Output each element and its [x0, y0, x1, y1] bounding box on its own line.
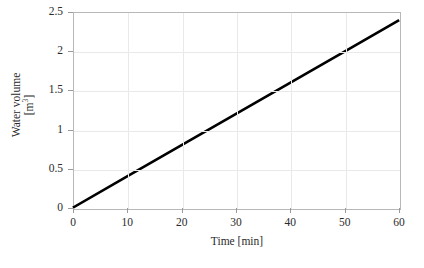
- x-tick-mark: [399, 208, 400, 213]
- x-tick-label: 20: [162, 217, 202, 229]
- x-tick-label: 60: [379, 217, 419, 229]
- x-tick-label: 10: [107, 217, 147, 229]
- x-tick-label: 0: [53, 217, 93, 229]
- y-tick-label: 0.5: [0, 163, 63, 175]
- y-axis-unit-base: [m: [23, 102, 35, 115]
- x-tick-label: 40: [270, 217, 310, 229]
- y-tick-label: 1: [0, 124, 63, 136]
- chart-figure: Water volume [m3] 00.511.522.5 010203040…: [0, 0, 424, 268]
- x-axis-title: Time [min]: [73, 235, 401, 248]
- x-tick-mark: [345, 208, 346, 213]
- x-tick-mark: [73, 208, 74, 213]
- gridline-vertical: [346, 13, 347, 209]
- gridline-vertical: [128, 13, 129, 209]
- y-tick-label: 2: [0, 45, 63, 57]
- x-tick-label: 50: [325, 217, 365, 229]
- x-tick-mark: [236, 208, 237, 213]
- x-tick-mark: [182, 208, 183, 213]
- y-axis-unit-exponent: 3: [21, 99, 30, 103]
- y-tick-mark: [68, 90, 73, 91]
- plot-area: [73, 12, 401, 210]
- series-line-water-volume: [74, 21, 398, 207]
- y-axis-title: Water volume [m3]: [0, 0, 46, 210]
- y-tick-mark: [68, 51, 73, 52]
- y-tick-label: 1.5: [0, 84, 63, 96]
- gridline-vertical: [291, 13, 292, 209]
- x-tick-mark: [290, 208, 291, 213]
- gridline-vertical: [183, 13, 184, 209]
- y-tick-mark: [68, 12, 73, 13]
- x-tick-label: 30: [216, 217, 256, 229]
- x-tick-mark: [127, 208, 128, 213]
- y-tick-label: 2.5: [0, 6, 63, 18]
- y-tick-mark: [68, 130, 73, 131]
- y-tick-label: 0: [0, 202, 63, 214]
- gridline-vertical: [237, 13, 238, 209]
- y-tick-mark: [68, 169, 73, 170]
